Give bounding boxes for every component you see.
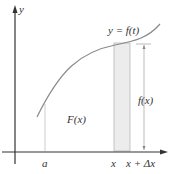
height-label: f(x) [138, 95, 153, 106]
curve-label: y = f(t) [108, 25, 139, 36]
arrow-up-icon [143, 45, 146, 49]
diagram-canvas [0, 0, 169, 174]
arrow-down-icon [143, 146, 146, 150]
y-axis-arrow-icon [13, 5, 18, 13]
tick-label-a: a [42, 158, 48, 169]
tick-label-x-plus-dx: x + Δx [126, 158, 155, 169]
x-axis-arrow-icon [160, 150, 168, 155]
tick-label-x: x [111, 158, 116, 169]
area-strip [114, 43, 130, 151]
area-label: F(x) [67, 114, 86, 125]
y-axis-label: y [19, 4, 24, 15]
